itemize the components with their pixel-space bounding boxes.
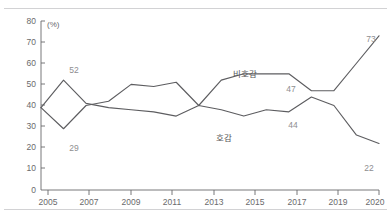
- series-annotation-hogam: 호감: [216, 133, 232, 143]
- series-line-hogam: [41, 80, 379, 143]
- x-tick-label-2013: 2013: [205, 197, 224, 207]
- x-tick-label-2017: 2017: [288, 197, 307, 207]
- x-tick-label-2019: 2019: [329, 197, 348, 207]
- series-line-bihogam: [41, 36, 379, 129]
- series-annotation-bihogam: 비호감: [233, 69, 257, 79]
- y-axis-ticks: [41, 21, 45, 168]
- value-label-47: 47: [286, 84, 296, 94]
- x-tick-label-2015: 2015: [246, 197, 265, 207]
- y-tick-label-60: 60: [27, 58, 37, 68]
- y-tick-label-0: 0: [31, 185, 36, 195]
- x-tick-label-2005: 2005: [39, 197, 58, 207]
- y-tick-label-30: 30: [27, 121, 37, 131]
- value-label-52: 52: [69, 65, 79, 75]
- x-tick-label-2009: 2009: [122, 197, 141, 207]
- value-label-29: 29: [69, 143, 79, 153]
- y-tick-label-40: 40: [27, 100, 37, 110]
- x-tick-label-2020: 2020: [366, 197, 385, 207]
- y-tick-label-50: 50: [27, 79, 37, 89]
- x-axis-ticks: [48, 190, 379, 195]
- value-label-44: 44: [288, 120, 298, 130]
- bottom-divider-rule: [4, 209, 387, 210]
- y-tick-label-10: 10: [27, 163, 37, 173]
- x-tick-label-2007: 2007: [80, 197, 99, 207]
- y-tick-label-70: 70: [27, 37, 37, 47]
- line-chart: 80 70 60 50 40 30 20 10 0 (%) 2005 2007 …: [0, 10, 391, 208]
- value-label-73: 73: [366, 34, 376, 44]
- chart-svg: 80 70 60 50 40 30 20 10 0 (%) 2005 2007 …: [0, 10, 391, 208]
- top-divider-rule: [4, 8, 387, 9]
- x-tick-label-2011: 2011: [163, 197, 182, 207]
- y-tick-label-80: 80: [27, 16, 37, 26]
- value-label-22: 22: [364, 163, 374, 173]
- y-axis-unit-label: (%): [47, 20, 60, 29]
- y-tick-label-20: 20: [27, 142, 37, 152]
